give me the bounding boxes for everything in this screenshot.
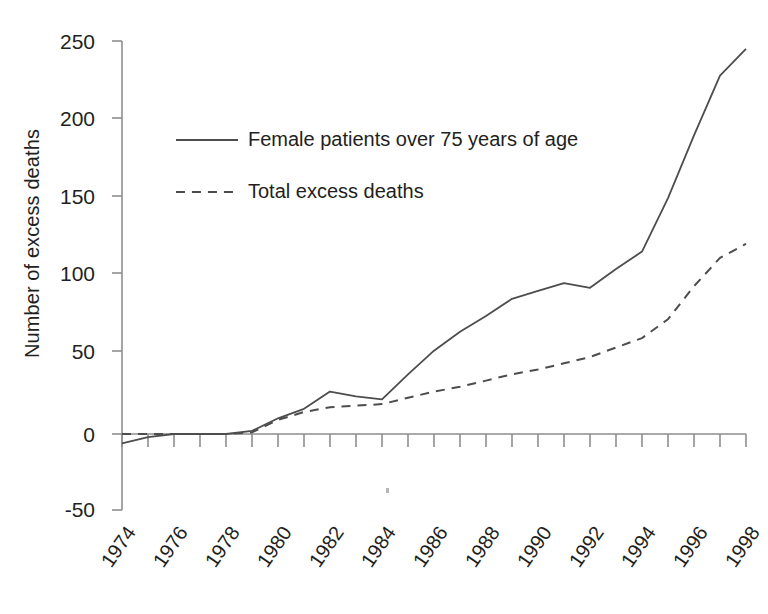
chart-figure: Number of excess deaths 250 200 150 100 … [0, 0, 768, 614]
x-axis-ticks [122, 434, 746, 447]
series-line-total-excess-deaths [122, 244, 746, 434]
scan-artifact-speck [386, 488, 389, 493]
legend-label-total-excess-deaths: Total excess deaths [248, 180, 424, 203]
legend-label-female-patients-over-75: Female patients over 75 years of age [248, 128, 578, 151]
series-line-female-patients-over-75 [122, 49, 746, 444]
chart-plot-area [0, 0, 768, 614]
